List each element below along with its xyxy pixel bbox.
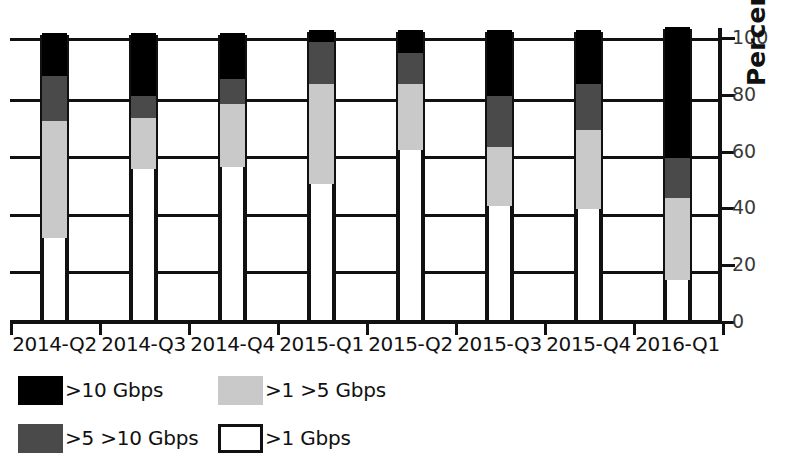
legend-swatch-light-gray-icon bbox=[218, 376, 263, 405]
bar-2015-q4[interactable] bbox=[574, 32, 603, 322]
segment-gt1gbps bbox=[665, 280, 690, 320]
x-tick-label-2015-q2: 2015-Q2 bbox=[366, 334, 455, 354]
segment-gt1gbps bbox=[220, 167, 245, 320]
gridline-100 bbox=[10, 38, 722, 41]
legend-row-top: >10 Gbps >1 >5 Gbps bbox=[18, 370, 518, 410]
y-tick-label-40: 40 bbox=[732, 198, 756, 217]
x-tick-label-2016-q1: 2016-Q1 bbox=[633, 334, 722, 354]
x-tick-label-2014-q3: 2014-Q3 bbox=[99, 334, 188, 354]
y-tick-label-0: 0 bbox=[732, 312, 744, 331]
x-tick-label-2014-q4: 2014-Q4 bbox=[188, 334, 277, 354]
bar-2015-q2[interactable] bbox=[396, 32, 425, 322]
bar-2014-q2[interactable] bbox=[40, 35, 69, 322]
gridline-60 bbox=[10, 156, 722, 159]
x-tick-label-2015-q4: 2015-Q4 bbox=[544, 334, 633, 354]
segment-gt1gbps bbox=[131, 169, 156, 320]
legend-item-gt1gbps[interactable]: >1 Gbps bbox=[218, 418, 351, 458]
plot-area bbox=[10, 28, 722, 324]
gridline-80 bbox=[10, 99, 722, 102]
legend-swatch-black-icon bbox=[18, 376, 63, 405]
legend-label-gt1gbps: >1 Gbps bbox=[265, 426, 351, 450]
legend-row-bottom: >5 >10 Gbps >1 Gbps bbox=[18, 418, 518, 458]
bar-2014-q3[interactable] bbox=[129, 35, 158, 322]
y-axis-line bbox=[718, 28, 722, 324]
legend-item-gt10gbps[interactable]: >10 Gbps bbox=[18, 370, 163, 410]
bar-2014-q4[interactable] bbox=[218, 35, 247, 322]
segment-gt1gbps bbox=[487, 206, 512, 320]
segment-gt1gbps bbox=[42, 238, 67, 320]
bar-2015-q1[interactable] bbox=[307, 32, 336, 322]
x-tick-label-2015-q1: 2015-Q1 bbox=[277, 334, 366, 354]
bar-2016-q1[interactable] bbox=[663, 29, 692, 322]
y-tick-label-80: 80 bbox=[732, 85, 756, 104]
legend-swatch-dark-gray-icon bbox=[18, 424, 63, 453]
gridline-20 bbox=[10, 271, 722, 274]
y-axis-title: Percent of Attacks bbox=[742, 0, 771, 86]
bar-2015-q3[interactable] bbox=[485, 32, 514, 322]
x-tick-label-2014-q2: 2014-Q2 bbox=[10, 334, 99, 354]
legend-label-gt1-gt5gbps: >1 >5 Gbps bbox=[265, 378, 386, 402]
x-tick-label-2015-q3: 2015-Q3 bbox=[455, 334, 544, 354]
y-tick-label-60: 60 bbox=[732, 142, 756, 161]
legend-swatch-white-icon bbox=[218, 424, 263, 453]
legend-label-gt5-gt10gbps: >5 >10 Gbps bbox=[65, 426, 199, 450]
segment-gt1gbps bbox=[398, 150, 423, 320]
legend-label-gt10gbps: >10 Gbps bbox=[65, 378, 163, 402]
gridline-40 bbox=[10, 214, 722, 217]
segment-gt1gbps bbox=[576, 209, 601, 320]
legend-item-gt1-gt5gbps[interactable]: >1 >5 Gbps bbox=[218, 370, 386, 410]
x-tick-8 bbox=[722, 324, 725, 335]
segment-gt1gbps bbox=[309, 184, 334, 320]
legend-item-gt5-gt10gbps[interactable]: >5 >10 Gbps bbox=[18, 418, 199, 458]
chart-figure: 0204060801002014-Q22014-Q32014-Q42015-Q1… bbox=[0, 0, 799, 466]
y-tick-label-20: 20 bbox=[732, 255, 756, 274]
